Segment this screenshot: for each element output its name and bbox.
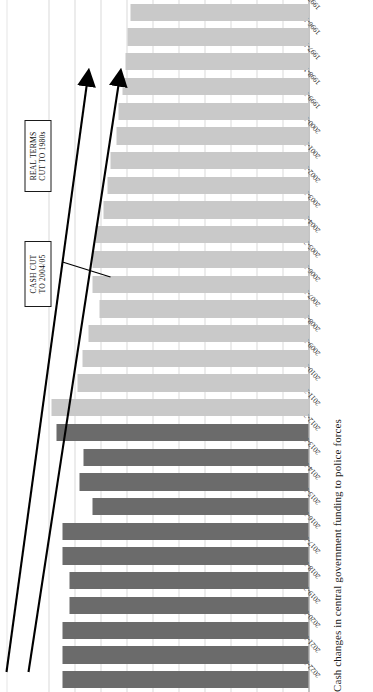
chart-title: Cash changes in central government fundi… bbox=[330, 0, 342, 692]
chart-figure: Cash changes in central government fundi… bbox=[0, 0, 373, 692]
bar bbox=[122, 78, 308, 95]
bar bbox=[107, 177, 309, 194]
bar bbox=[69, 597, 308, 614]
bar bbox=[130, 4, 308, 21]
bar bbox=[62, 523, 308, 540]
bar bbox=[62, 671, 308, 688]
bar bbox=[92, 251, 308, 268]
bar bbox=[62, 622, 308, 639]
bar bbox=[127, 28, 308, 45]
bar bbox=[56, 424, 308, 441]
bar bbox=[69, 572, 308, 589]
annotation-cash-cut: CASH CUT TO 2004/05 bbox=[24, 241, 51, 307]
bar bbox=[62, 646, 308, 663]
bar bbox=[82, 350, 308, 367]
bar bbox=[77, 374, 308, 391]
bar bbox=[62, 547, 308, 564]
bar bbox=[103, 201, 308, 218]
bar bbox=[92, 498, 308, 515]
bar bbox=[110, 152, 308, 169]
bar bbox=[99, 300, 308, 317]
bar bbox=[51, 399, 308, 416]
bar bbox=[88, 325, 308, 342]
bar bbox=[116, 127, 308, 144]
annotation-real-terms: REAL TERMS CUT TO 1980s bbox=[24, 120, 51, 192]
bar bbox=[118, 103, 308, 120]
bar bbox=[92, 276, 308, 293]
bar bbox=[95, 226, 308, 243]
value-axis bbox=[22, 0, 68, 692]
bar bbox=[125, 53, 308, 70]
bar bbox=[83, 449, 308, 466]
bar bbox=[79, 473, 308, 490]
